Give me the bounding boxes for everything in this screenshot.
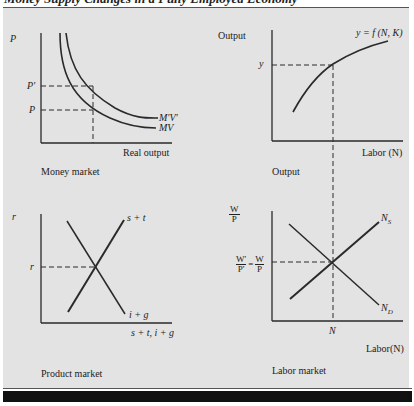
production-function-curve xyxy=(293,41,388,112)
nd-sub: D xyxy=(388,308,393,316)
y-tick: y xyxy=(259,58,263,69)
investment-gov-label: i + g xyxy=(129,309,149,320)
r-tick: r xyxy=(30,261,34,272)
real-wage-tick: W' P' = W P xyxy=(236,255,264,274)
output-axes xyxy=(272,30,403,141)
ns-n: N xyxy=(381,212,388,223)
labor-demand-label: ND xyxy=(381,302,393,316)
product-y-axis-label: r xyxy=(12,211,16,222)
labor-supply-label: NS xyxy=(381,212,391,226)
product-x-axis-label: s + t, i + g xyxy=(131,327,174,338)
equals-sign: = xyxy=(248,260,253,269)
output-x-axis-label: Labor (N) xyxy=(362,147,402,158)
production-function-label: y = f (N, K) xyxy=(356,27,402,38)
mv-curve xyxy=(60,33,156,128)
ns-sub: S xyxy=(388,218,392,226)
labor-y-axis-label: W P xyxy=(229,205,240,224)
p-prime-tick: P' xyxy=(27,80,35,91)
money-y-axis-label: P xyxy=(10,33,16,44)
product-market-axes xyxy=(41,214,172,323)
savings-taxes-label: s + t xyxy=(127,212,145,223)
diagram-graphics xyxy=(0,0,414,406)
labor-y-den: P xyxy=(229,215,240,224)
p: P xyxy=(255,265,264,274)
money-x-axis-label: Real output xyxy=(123,147,169,158)
labor-market-caption: Labor market xyxy=(272,365,326,376)
labor-x-axis-label: Labor(N) xyxy=(366,343,404,354)
labor-supply-line xyxy=(290,222,379,299)
money-market-caption: Money market xyxy=(41,166,100,177)
output-y-axis-label: Output xyxy=(218,30,246,41)
product-market-caption: Product market xyxy=(41,368,102,379)
mv-label: MV xyxy=(159,122,173,133)
mv-prime-curve xyxy=(66,33,158,118)
output-caption: Output xyxy=(272,166,300,177)
nd-n: N xyxy=(381,302,388,313)
n-tick: N xyxy=(329,325,336,336)
pprime: P' xyxy=(236,265,246,274)
labor-demand-line xyxy=(289,224,379,305)
p-tick: P xyxy=(29,104,35,115)
